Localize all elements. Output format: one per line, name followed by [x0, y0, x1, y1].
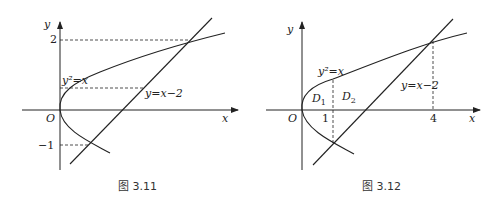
figure-3-11: y x O 2 −1 y²=x y=x−2 图 3.11: [22, 18, 238, 193]
x-axis-label: x: [222, 112, 229, 125]
y-tick-2: 2: [50, 33, 57, 46]
parabola-curve: [302, 33, 467, 154]
svg-text:D1: D1: [311, 92, 326, 107]
curve-label: y²=x: [317, 65, 345, 78]
caption: 图 3.11: [118, 180, 157, 193]
svg-text:D2: D2: [341, 90, 356, 105]
y-tick-minus-1: −1: [38, 139, 54, 152]
region-d1-label: D1: [311, 92, 326, 107]
y-axis-label: y: [286, 23, 294, 36]
parabola-curve: [60, 33, 225, 153]
x-tick-1: 1: [322, 112, 329, 125]
origin-label: O: [46, 112, 55, 125]
x-tick-4: 4: [430, 112, 437, 125]
curve-label: y²=x: [61, 74, 89, 87]
region-d2-label: D2: [341, 90, 356, 105]
y-axis-label: y: [43, 18, 51, 31]
line-label: y=x−2: [144, 87, 183, 100]
x-axis-label: x: [469, 112, 476, 125]
caption: 图 3.12: [362, 180, 401, 193]
line-y-eq-x-minus-2: [313, 19, 453, 165]
figure-3-12: y x O 1 4 y²=x y=x−2 D1 D2 图 3.12: [266, 19, 480, 193]
origin-label: O: [288, 112, 297, 125]
line-label: y=x−2: [400, 79, 439, 92]
